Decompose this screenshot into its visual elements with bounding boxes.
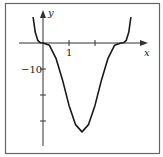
x-axis-arrow-icon [140, 40, 148, 46]
x-axis: 1 x [19, 40, 150, 58]
y-axis-arrow-icon [40, 10, 46, 18]
y-tick-label: −10 [21, 64, 42, 75]
chart: 1 x −10 y [0, 0, 163, 157]
curve-line [33, 17, 131, 132]
y-axis: −10 y [21, 7, 54, 146]
y-axis-label: y [47, 7, 54, 18]
x-axis-label: x [144, 47, 150, 58]
x-tick-label: 1 [66, 47, 72, 58]
